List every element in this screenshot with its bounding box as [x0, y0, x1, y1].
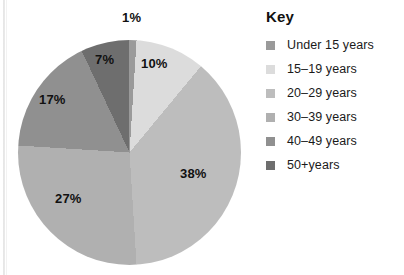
legend-item-label: 50+years — [287, 158, 340, 172]
legend-swatch-icon — [266, 161, 275, 170]
pie-label-30-39-years: 27% — [55, 191, 82, 206]
pie-label-40-49-years: 17% — [39, 92, 66, 107]
pie-label-15-19-years: 10% — [141, 56, 168, 71]
pie-chart: 1% 10% 38% 27% 17% 7% — [0, 0, 258, 275]
legend-swatch-icon — [266, 41, 275, 50]
page-root: 1% 10% 38% 27% 17% 7% Key Under 15 years… — [0, 0, 404, 275]
legend-item: 30–39 years — [266, 105, 404, 129]
legend-item: Under 15 years — [266, 33, 404, 57]
legend-swatch-icon — [266, 113, 275, 122]
legend-swatch-icon — [266, 65, 275, 74]
legend-item-label: 15–19 years — [287, 62, 357, 76]
legend-title: Key — [266, 8, 404, 25]
legend-item-label: 20–29 years — [287, 86, 357, 100]
legend: Key Under 15 years15–19 years20–29 years… — [266, 8, 404, 177]
legend-rows: Under 15 years15–19 years20–29 years30–3… — [266, 33, 404, 177]
pie-graphic — [18, 40, 241, 265]
legend-item: 15–19 years — [266, 57, 404, 81]
pie-label-under-15-years: 1% — [122, 10, 141, 25]
legend-item-label: 40–49 years — [287, 134, 357, 148]
legend-item-label: 30–39 years — [287, 110, 357, 124]
legend-item: 50+years — [266, 153, 404, 177]
legend-item-label: Under 15 years — [287, 38, 374, 52]
legend-swatch-icon — [266, 137, 275, 146]
pie-label-20-29-years: 38% — [180, 166, 207, 181]
legend-item: 40–49 years — [266, 129, 404, 153]
legend-item: 20–29 years — [266, 81, 404, 105]
pie-label-50-plus-years: 7% — [95, 52, 114, 67]
legend-swatch-icon — [266, 89, 275, 98]
